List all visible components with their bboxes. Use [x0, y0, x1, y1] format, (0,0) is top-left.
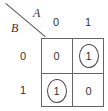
grouping-circle	[79, 44, 99, 68]
cell-value: 0	[85, 85, 91, 97]
cell-b0-a0: 0	[41, 38, 72, 73]
cell-value: 0	[53, 50, 59, 62]
column-label-1: 1	[78, 16, 98, 28]
grouping-circle	[47, 79, 67, 103]
cell-b1-a0: 1	[41, 73, 72, 108]
column-variable: A	[33, 6, 40, 21]
cell-b0-a1: 1	[73, 38, 104, 73]
cell-b1-a1: 0	[73, 73, 104, 108]
row-variable: B	[11, 21, 18, 36]
row-label-1: 1	[13, 84, 33, 96]
row-label-0: 0	[13, 50, 33, 62]
column-label-0: 0	[46, 16, 66, 28]
